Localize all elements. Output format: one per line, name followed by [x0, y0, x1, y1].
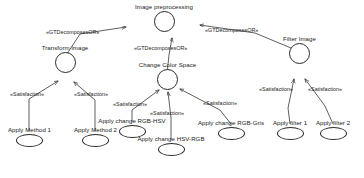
task-ellipse-icon	[16, 134, 43, 147]
diagram-canvas: Image preprocessing Transform image Chan…	[0, 0, 364, 178]
edge-label-color-to-root: «GTDecomposesOR»	[134, 45, 187, 51]
node-label: Apply filter 1	[273, 119, 307, 126]
edge-label-hsvrgb-to-color: «Satisfaction»	[150, 110, 184, 116]
goal-circle-icon	[154, 11, 175, 32]
node-label: Apply Method 1	[8, 126, 51, 133]
task-ellipse-icon	[218, 127, 245, 140]
edge-label-m1-to-transform: «Satisfaction»	[10, 91, 44, 97]
node-apply-filter-2[interactable]: Apply filter 2	[311, 119, 355, 140]
edge-m2-to-transform	[74, 82, 95, 131]
goal-circle-icon	[289, 43, 310, 64]
node-label: Apply change RGB-HSV	[98, 117, 165, 124]
node-label: Transform image	[42, 44, 89, 51]
node-label: Change Color Space	[139, 61, 196, 68]
node-label: Apply change RGB-Gris	[198, 119, 264, 126]
edge-label-transform-to-root: «GTDecomposesOR»	[46, 29, 99, 35]
edge-label-rgbhsv-to-color: «Satisfaction»	[113, 101, 147, 107]
task-ellipse-icon	[277, 127, 304, 140]
node-apply-method-1[interactable]: Apply Method 1	[2, 126, 57, 147]
task-ellipse-icon	[158, 143, 185, 156]
goal-circle-icon	[157, 69, 178, 90]
node-label: Apply change HSV-RGB	[137, 135, 204, 142]
edge-m1-to-transform	[29, 81, 58, 131]
node-filter-image[interactable]: Filter Image	[272, 35, 327, 64]
edge-label-filter-to-root: «GTDecomposesOR»	[205, 27, 258, 33]
edge-label-m2-to-transform: «Satisfaction»	[74, 91, 108, 97]
node-apply-change-hsv-rgb[interactable]: Apply change HSV-RGB	[146, 135, 196, 156]
node-label: Image preprocessing	[135, 3, 193, 10]
node-label: Filter Image	[283, 35, 316, 42]
node-apply-filter-1[interactable]: Apply filter 1	[268, 119, 312, 140]
task-ellipse-icon	[82, 134, 109, 147]
task-ellipse-icon	[320, 127, 347, 140]
goal-circle-icon	[55, 52, 76, 73]
node-apply-change-rgb-gris[interactable]: Apply change RGB-Gris	[206, 119, 256, 140]
node-transform-image[interactable]: Transform image	[32, 44, 98, 73]
node-image-preprocessing[interactable]: Image preprocessing	[126, 3, 202, 32]
edge-label-f2-to-filter: «Satisfaction»	[308, 86, 342, 92]
edge-label-f1-to-filter: «Satisfaction»	[259, 86, 293, 92]
edge-label-rgbgris-to-color: «Satisfaction»	[203, 100, 237, 106]
edge-hsvrgb-to-color	[168, 92, 171, 140]
node-change-color-space[interactable]: Change Color Space	[130, 61, 205, 90]
node-label: Apply filter 2	[316, 119, 350, 126]
